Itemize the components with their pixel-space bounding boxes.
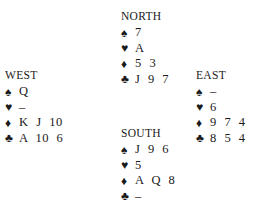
club-icon: ♣ (121, 190, 132, 202)
south-diamond-cards: A Q 8 (135, 173, 175, 188)
west-clubs: ♣ A 10 6 (5, 131, 63, 147)
diamond-icon: ♦ (121, 58, 132, 70)
spade-icon: ♠ (121, 144, 132, 156)
south-heart-cards: 5 (135, 158, 142, 173)
diamond-icon: ♦ (121, 175, 132, 187)
north-heart-cards: A (135, 41, 145, 56)
south-clubs: ♣ – (121, 189, 175, 205)
north-diamond-cards: 5 3 (135, 56, 156, 71)
east-hearts: ♥ 6 (196, 100, 246, 116)
spade-icon: ♠ (121, 27, 132, 39)
heart-icon: ♥ (121, 42, 132, 54)
south-spade-cards: J 9 6 (135, 142, 169, 157)
heart-icon: ♥ (5, 101, 16, 113)
spade-icon: ♠ (196, 86, 207, 98)
north-spade-cards: 7 (135, 25, 142, 40)
east-spade-cards: – (210, 84, 217, 99)
west-spades: ♠ Q (5, 84, 63, 100)
diamond-icon: ♦ (5, 117, 16, 129)
diamond-icon: ♦ (196, 117, 207, 129)
club-icon: ♣ (121, 73, 132, 85)
north-title: NORTH (121, 9, 169, 23)
east-heart-cards: 6 (210, 100, 217, 115)
south-club-cards: – (135, 189, 142, 204)
west-hand: WEST ♠ Q ♥ – ♦ K J 10 ♣ A 10 6 (5, 68, 63, 146)
east-diamond-cards: 9 7 4 (210, 115, 246, 130)
east-spades: ♠ – (196, 84, 246, 100)
north-spades: ♠ 7 (121, 25, 169, 41)
west-club-cards: A 10 6 (19, 131, 63, 146)
heart-icon: ♥ (121, 159, 132, 171)
west-heart-cards: – (19, 100, 26, 115)
north-hand: NORTH ♠ 7 ♥ A ♦ 5 3 ♣ J 9 7 (121, 9, 169, 87)
north-clubs: ♣ J 9 7 (121, 72, 169, 88)
east-club-cards: 8 5 4 (210, 131, 246, 146)
north-club-cards: J 9 7 (135, 72, 169, 87)
club-icon: ♣ (196, 132, 207, 144)
east-hand: EAST ♠ – ♥ 6 ♦ 9 7 4 ♣ 8 5 4 (196, 68, 246, 146)
spade-icon: ♠ (5, 86, 16, 98)
heart-icon: ♥ (196, 101, 207, 113)
west-spade-cards: Q (19, 84, 29, 99)
west-diamond-cards: K J 10 (19, 115, 63, 130)
west-hearts: ♥ – (5, 100, 63, 116)
west-title: WEST (5, 68, 63, 82)
west-diamonds: ♦ K J 10 (5, 115, 63, 131)
north-diamonds: ♦ 5 3 (121, 56, 169, 72)
south-hearts: ♥ 5 (121, 158, 175, 174)
south-hand: SOUTH ♠ J 9 6 ♥ 5 ♦ A Q 8 ♣ – (121, 126, 175, 204)
south-diamonds: ♦ A Q 8 (121, 173, 175, 189)
club-icon: ♣ (5, 132, 16, 144)
south-spades: ♠ J 9 6 (121, 142, 175, 158)
south-title: SOUTH (121, 126, 175, 140)
north-hearts: ♥ A (121, 41, 169, 57)
east-clubs: ♣ 8 5 4 (196, 131, 246, 147)
east-title: EAST (196, 68, 246, 82)
east-diamonds: ♦ 9 7 4 (196, 115, 246, 131)
